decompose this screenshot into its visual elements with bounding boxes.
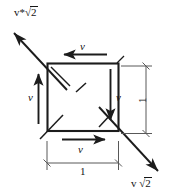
label-lower-right-diagonal-radicand: 2 (144, 177, 152, 190)
label-dimension-right: 1 (137, 98, 148, 104)
label-upper-left-diagonal: v*√2 (14, 6, 38, 19)
label-lower-right-diagonal: v √2 (131, 177, 152, 190)
corner-tick-top-right (117, 56, 124, 63)
label-velocity-top: v (80, 41, 85, 52)
label-dimension-bottom: 1 (80, 166, 86, 177)
label-velocity-left: v (28, 92, 33, 103)
corner-tick-bottom-left (40, 115, 63, 139)
vector-diagram-svg (0, 0, 176, 196)
corner-tick-center-dash (76, 83, 86, 92)
dimension-lines (44, 63, 153, 171)
diagonal-arrow-lower-right (99, 107, 158, 171)
diagram-canvas: v*√2 v √2 v v v v 1 1 (0, 0, 176, 196)
label-upper-left-diagonal-prefix: v* (14, 6, 25, 18)
label-velocity-right: v (116, 92, 121, 103)
label-upper-left-diagonal-radicand: 2 (30, 6, 38, 19)
diagonal-arrow-upper-left (14, 33, 67, 90)
label-velocity-bottom: v (78, 144, 83, 155)
label-lower-right-diagonal-prefix: v (131, 177, 137, 189)
